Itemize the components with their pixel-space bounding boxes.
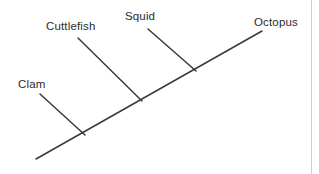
tree-lines (36, 29, 262, 159)
backbone-line (36, 31, 262, 159)
branch-line-clam (40, 94, 85, 135)
cladogram-figure: Clam Cuttlefish Squid Octopus (0, 0, 319, 174)
scan-edge-line (311, 0, 312, 174)
taxon-label-clam: Clam (18, 78, 45, 91)
taxon-label-octopus: Octopus (254, 16, 298, 29)
branch-line-squid (148, 29, 196, 71)
branch-line-cuttlefish (78, 38, 142, 101)
taxon-label-cuttlefish: Cuttlefish (46, 20, 95, 33)
taxon-label-squid: Squid (125, 10, 155, 23)
